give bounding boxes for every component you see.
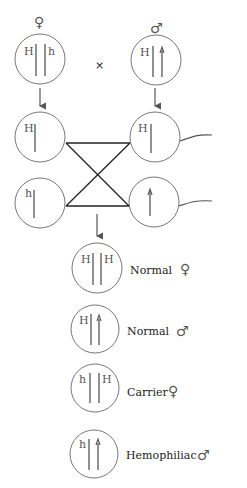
male-symbol: ♂ [150,20,163,36]
female-allele-1: H [24,45,34,58]
gamete-male-H: H [130,112,212,162]
offspring-label: Normal [130,264,172,277]
svg-text:H: H [104,253,114,266]
female-symbol: ♀ [180,261,190,277]
parent-male: ♂ H [131,20,181,85]
svg-text:H: H [102,373,112,386]
female-symbol: ♀ [34,14,44,30]
male-allele-1: H [140,46,150,59]
offspring-label: Hemophiliac [126,449,197,462]
svg-text:H: H [79,314,89,327]
cross-lines [66,143,130,206]
sperm-tail-icon [180,135,212,141]
female-symbol: ♀ [168,383,178,399]
offspring-label: Carrier [127,386,169,399]
male-symbol: ♂ [176,323,189,339]
offspring-normal-male: H Normal ♂ [71,305,189,353]
offspring-carrier-female: h H Carrier ♀ [71,364,178,412]
svg-text:h: h [25,187,32,200]
cross-symbol: × [95,59,104,72]
parent-female: ♀ H h [15,14,65,84]
svg-text:h: h [79,373,86,386]
svg-text:h: h [79,438,86,451]
female-cell [15,34,65,84]
gamete-female-H: H [15,112,65,162]
svg-text:H: H [24,122,34,135]
svg-text:H: H [138,122,148,135]
offspring-label: Normal [127,325,169,338]
sperm-tail-icon [179,201,212,206]
gamete-male-Y [129,177,212,227]
svg-text:H: H [81,253,91,266]
male-cell [131,35,181,85]
male-symbol: ♂ [197,447,210,463]
hemophilia-cross-diagram: ♀ H h × ♂ H H h H [0,0,247,488]
offspring-normal-female: H H Normal ♀ [72,243,190,293]
gamete-female-h: h [15,178,65,228]
offspring-hemophiliac-male: h Hemophiliac ♂ [70,430,210,478]
female-allele-2: h [48,45,55,58]
